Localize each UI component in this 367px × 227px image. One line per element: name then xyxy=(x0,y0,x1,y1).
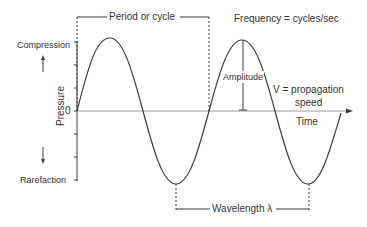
velocity-label-line1: V = propagation xyxy=(273,84,344,96)
zero-label: 0 xyxy=(65,105,71,117)
velocity-label-line2: speed xyxy=(295,97,322,109)
arrow-down-icon xyxy=(41,159,45,164)
sound-wave-diagram: Period or cycle Frequency = cycles/sec C… xyxy=(0,0,367,227)
compression-label: Compression xyxy=(17,39,70,51)
amplitude-label: Amplitude xyxy=(222,71,264,83)
wavelength-label: Wavelength λ xyxy=(211,203,273,215)
rarefaction-label: Rarefaction xyxy=(20,174,66,186)
frequency-label: Frequency = cycles/sec xyxy=(234,13,339,25)
period-label: Period or cycle xyxy=(108,11,176,23)
arrow-up-icon xyxy=(41,55,45,60)
time-arrow-icon xyxy=(346,109,353,114)
time-axis-label: Time xyxy=(296,116,318,128)
